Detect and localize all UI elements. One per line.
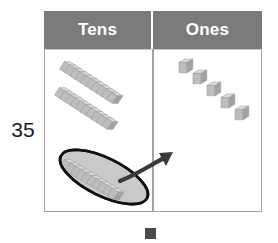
place-value-chart: Tens Ones <box>44 11 262 212</box>
problem-number: 35 <box>6 119 40 140</box>
bottom-square-marker <box>145 228 156 239</box>
column-divider <box>152 49 154 212</box>
place-value-worksheet: 35 Tens Ones <box>0 0 278 243</box>
column-header-ones-label: Ones <box>186 20 229 40</box>
column-header-tens: Tens <box>44 11 151 49</box>
chart-header-row: Tens Ones <box>44 11 262 49</box>
column-header-tens-label: Tens <box>78 20 117 40</box>
column-header-ones: Ones <box>153 11 262 49</box>
